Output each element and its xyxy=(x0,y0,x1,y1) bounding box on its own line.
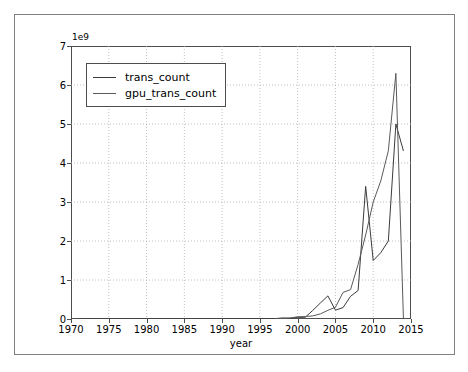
y-tick-label: 2 xyxy=(60,236,66,247)
x-tick-label: 1975 xyxy=(96,324,121,335)
y-tick-mark xyxy=(67,280,71,281)
y-tick-label: 1 xyxy=(60,275,66,286)
y-tick-label: 5 xyxy=(60,119,66,130)
y-tick-mark xyxy=(67,124,71,125)
x-tick-label: 1990 xyxy=(209,324,234,335)
x-tick-label: 1995 xyxy=(247,324,272,335)
x-tick-mark xyxy=(147,319,148,323)
x-tick-mark xyxy=(184,319,185,323)
x-tick-label: 2015 xyxy=(398,324,423,335)
x-tick-label: 2000 xyxy=(285,324,310,335)
x-tick-mark xyxy=(109,319,110,323)
figure-canvas: 1e9 01234567 197019751980198519901995200… xyxy=(14,14,455,355)
series-line-gpu-trans-count xyxy=(275,73,403,319)
x-tick-mark xyxy=(411,319,412,323)
x-tick-mark xyxy=(222,319,223,323)
legend-swatch-trans-count xyxy=(93,77,116,78)
y-tick-mark xyxy=(67,163,71,164)
legend-item-gpu-trans-count: gpu_trans_count xyxy=(93,85,216,101)
x-tick-mark xyxy=(298,319,299,323)
x-tick-mark xyxy=(71,319,72,323)
x-tick-mark xyxy=(335,319,336,323)
chart-legend: trans_count gpu_trans_count xyxy=(86,63,226,107)
y-tick-label: 6 xyxy=(60,80,66,91)
legend-label-gpu-trans-count: gpu_trans_count xyxy=(125,87,216,100)
legend-item-trans-count: trans_count xyxy=(93,69,216,85)
y-axis-offset-text: 1e9 xyxy=(72,32,89,43)
plot-area: 1e9 01234567 197019751980198519901995200… xyxy=(71,46,411,319)
y-tick-mark xyxy=(67,85,71,86)
x-tick-label: 1985 xyxy=(172,324,197,335)
x-tick-mark xyxy=(260,319,261,323)
legend-swatch-gpu-trans-count xyxy=(93,93,116,94)
x-axis-label: year xyxy=(230,338,252,349)
y-tick-mark xyxy=(67,46,71,47)
x-tick-label: 2005 xyxy=(323,324,348,335)
x-tick-label: 1970 xyxy=(58,324,83,335)
y-tick-label: 7 xyxy=(60,41,66,52)
y-tick-label: 0 xyxy=(60,314,66,325)
y-tick-label: 3 xyxy=(60,197,66,208)
legend-label-trans-count: trans_count xyxy=(125,71,190,84)
y-tick-mark xyxy=(67,202,71,203)
y-tick-mark xyxy=(67,241,71,242)
x-tick-mark xyxy=(373,319,374,323)
series-line-trans-count xyxy=(79,124,404,319)
x-tick-label: 2010 xyxy=(360,324,385,335)
x-tick-label: 1980 xyxy=(134,324,159,335)
y-tick-label: 4 xyxy=(60,158,66,169)
